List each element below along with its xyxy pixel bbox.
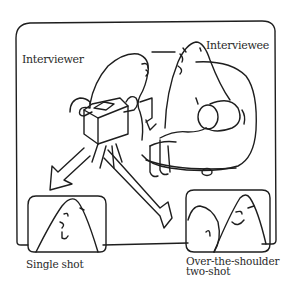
label-interviewee: Interviewee: [206, 40, 269, 51]
label-single-shot: Single shot: [26, 259, 83, 269]
sofa: [142, 52, 256, 176]
frame-bottom: [103, 243, 188, 245]
label-interviewer: Interviewer: [22, 54, 84, 65]
label-over-shoulder-line2: two-shot: [186, 266, 230, 276]
over-shoulder-frame: [186, 190, 270, 252]
video-camera: [70, 97, 138, 168]
arrow-single-shot: [50, 148, 90, 190]
arrow-over-shoulder: [104, 150, 172, 228]
interviewer-figure: [90, 54, 156, 140]
single-shot-frame: [28, 196, 106, 252]
